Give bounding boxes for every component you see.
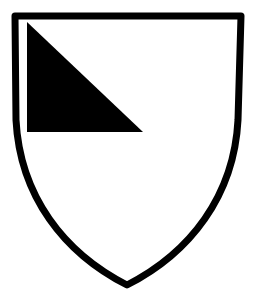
shield-illustration: Heraldic shield with black triangle in d… <box>0 0 254 305</box>
shield-drawing-canvas <box>0 0 254 305</box>
